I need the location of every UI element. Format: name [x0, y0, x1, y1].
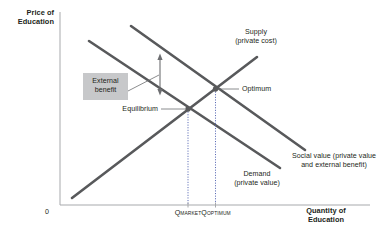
optimum-label: Optimum [242, 85, 271, 94]
x-axis-label-line1: Quantity of [306, 206, 346, 215]
external-benefit-arrow [157, 54, 162, 96]
q-optimum-subscript: OPTIMUM [207, 211, 231, 216]
x-axis-label: Quantity of Education [288, 206, 364, 224]
y-axis-label-line2: Education [18, 17, 54, 26]
external-benefit-callout: External benefit [83, 73, 128, 100]
y-axis-label: Price of Education [0, 8, 54, 26]
demand-label-line2: (private value) [234, 179, 280, 187]
equilibrium-label: Equilibrium [96, 105, 158, 114]
demand-curve-label: Demand (private value) [222, 170, 292, 187]
demand-label-line1: Demand [243, 170, 270, 178]
diagram-canvas [0, 0, 389, 235]
social-value-label-line1: Social value (private value [292, 152, 376, 160]
external-benefit-line1: External [92, 77, 118, 85]
external-benefit-line2: benefit [95, 86, 117, 94]
origin-label: 0 [45, 208, 49, 217]
supply-label-line2: (private cost) [235, 37, 277, 45]
y-axis-label-line1: Price of [26, 8, 54, 17]
optimum-point [213, 86, 218, 91]
supply-curve-label: Supply (private cost) [218, 28, 294, 45]
externality-education-diagram: Price of Education Quantity of Education… [0, 0, 389, 235]
social-value-curve-label: Social value (private value and external… [282, 152, 386, 169]
external-benefit-text: External benefit [92, 77, 118, 94]
x-axis-label-line2: Education [308, 215, 344, 224]
q-optimum-label: QOPTIMUM [190, 209, 242, 219]
social-value-label-line2: and external benefit) [301, 161, 367, 169]
equilibrium-point [185, 106, 190, 111]
supply-label-line1: Supply [245, 28, 267, 36]
